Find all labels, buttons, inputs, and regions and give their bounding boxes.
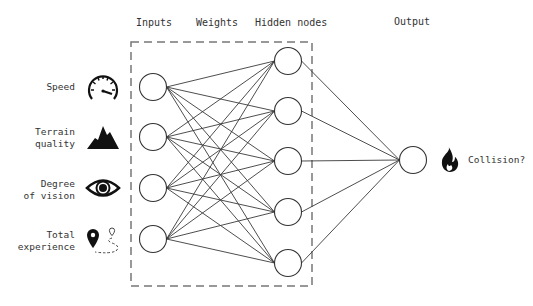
weight-edge — [302, 61, 400, 160]
map-route-icon — [85, 226, 125, 258]
input-label-speed: Speed — [46, 81, 75, 93]
fire-icon — [440, 145, 460, 173]
weight-edge — [302, 111, 400, 160]
weight-edge — [167, 161, 275, 239]
output-node — [400, 147, 427, 174]
weight-edge — [302, 160, 400, 263]
input-node — [140, 74, 167, 101]
weight-edge — [167, 239, 275, 263]
weight-edge — [167, 212, 275, 239]
output-label-collision: Collision? — [468, 154, 525, 166]
input-label-vision: Degree of vision — [24, 178, 75, 202]
input-label-experience: Total experience — [18, 229, 75, 253]
eye-icon — [85, 177, 121, 199]
input-node — [140, 124, 167, 151]
weight-edge — [302, 160, 400, 161]
input-node — [140, 175, 167, 202]
input-label-terrain: Terrain quality — [35, 126, 75, 150]
hidden-node — [275, 148, 302, 175]
speedometer-icon — [86, 73, 120, 103]
weight-edge — [167, 61, 275, 188]
hidden-node — [275, 199, 302, 226]
weight-edge — [302, 160, 400, 212]
hidden-node — [275, 48, 302, 75]
weight-edge — [167, 111, 275, 239]
hidden-node — [275, 250, 302, 277]
weight-edge — [167, 61, 275, 87]
mountain-icon — [86, 124, 120, 150]
hidden-node — [275, 98, 302, 125]
input-node — [140, 226, 167, 253]
weight-edge — [167, 61, 275, 137]
